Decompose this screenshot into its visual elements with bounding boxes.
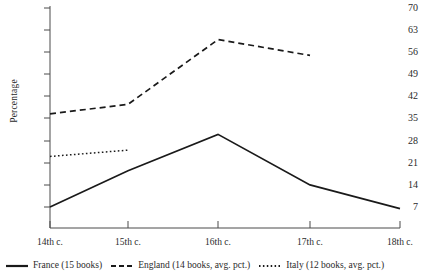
x-tick-label: 14th c. <box>15 238 85 248</box>
legend-entry-england: England (14 books, avg. pct.) <box>111 261 250 271</box>
y-tick-label: 49 <box>392 69 418 79</box>
y-tick-label: 7 <box>392 202 418 212</box>
series-line-france <box>50 134 400 208</box>
legend-entry-france: France (15 books) <box>6 261 102 271</box>
legend-entry-italy: Italy (12 books, avg. pct.) <box>259 261 384 271</box>
y-tick-label: 70 <box>392 3 418 13</box>
y-tick-label: 63 <box>392 25 418 35</box>
legend-label: Italy (12 books, avg. pct.) <box>286 261 384 271</box>
y-axis-title: Percentage <box>9 61 19 141</box>
legend-label: England (14 books, avg. pct.) <box>138 261 250 271</box>
legend-swatch-dotted-icon <box>259 262 281 270</box>
y-tick-label: 56 <box>392 47 418 57</box>
chart-legend: France (15 books) England (14 books, avg… <box>6 258 418 274</box>
x-tick-label: 18th c. <box>365 238 423 248</box>
x-tick-label: 15th c. <box>93 238 163 248</box>
y-tick-label: 42 <box>392 91 418 101</box>
series-line-england <box>50 40 310 114</box>
series-line-italy <box>50 150 128 156</box>
legend-swatch-dashed-icon <box>111 262 133 270</box>
x-axis-ticks <box>50 221 400 228</box>
y-tick-label: 35 <box>392 113 418 123</box>
legend-swatch-solid-icon <box>6 262 28 270</box>
y-tick-label: 28 <box>392 136 418 146</box>
legend-label: France (15 books) <box>33 261 102 271</box>
x-tick-label: 17th c. <box>275 238 345 248</box>
y-tick-label: 14 <box>392 180 418 190</box>
y-tick-label: 21 <box>392 158 418 168</box>
x-tick-label: 16th c. <box>183 238 253 248</box>
y-axis-ticks <box>44 8 50 207</box>
